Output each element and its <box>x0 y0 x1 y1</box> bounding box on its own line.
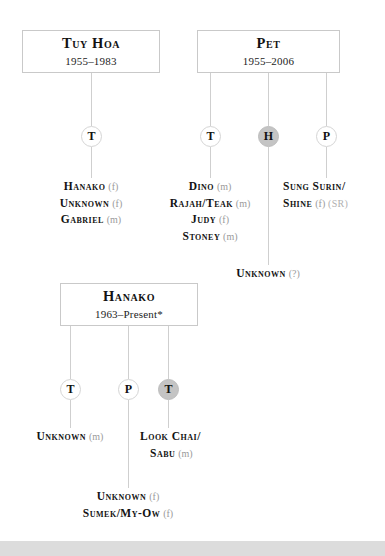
connector-line <box>128 326 129 379</box>
offspring-line: Rajah/Teak (m) <box>137 195 283 212</box>
connector-line <box>168 400 169 428</box>
offspring-name: Judy <box>191 213 216 225</box>
offspring-tag: (SR) <box>328 198 348 209</box>
offspring-group-pet-h: Unknown (?) <box>196 265 340 282</box>
offspring-gender: (m) <box>178 448 192 459</box>
offspring-gender: (m) <box>217 181 231 192</box>
connector-line <box>70 326 71 379</box>
offspring-name: Sumek/My-Ow <box>83 507 160 519</box>
offspring-gender: (m) <box>236 198 250 209</box>
connector-line <box>91 147 92 178</box>
relation-circle-hanako-t1: T <box>60 379 81 400</box>
connector-line <box>326 147 327 178</box>
offspring-line: Look Chai/ <box>140 428 250 445</box>
offspring-name: Stoney <box>182 230 220 242</box>
person-name: Tuy Hoa <box>62 36 120 51</box>
offspring-name: Unknown <box>37 430 87 442</box>
person-dates: 1963–Present* <box>95 308 163 320</box>
offspring-line: Sabu (m) <box>140 445 250 462</box>
offspring-line: Stoney (m) <box>137 228 283 245</box>
relation-circle-label: T <box>164 382 172 397</box>
offspring-gender: (f) <box>149 491 159 502</box>
offspring-line: Unknown (m) <box>0 428 140 445</box>
connector-line <box>91 73 92 126</box>
offspring-gender: (f) <box>219 214 229 225</box>
offspring-line: Shine (f) (SR) <box>283 195 385 212</box>
relation-circle-label: H <box>264 129 273 144</box>
offspring-line: Sung Surin/ <box>283 178 385 195</box>
connector-line <box>70 400 71 428</box>
offspring-group-pet-p: Sung Surin/ Shine (f) (SR) <box>283 178 385 211</box>
offspring-name: Gabriel <box>61 213 104 225</box>
person-name: Hanako <box>103 289 155 304</box>
offspring-gender: (f) <box>163 508 173 519</box>
offspring-name: Dino <box>189 180 214 192</box>
offspring-name: Sung Surin/ <box>283 180 346 192</box>
offspring-group-hanako-t1: Unknown (m) <box>0 428 140 445</box>
relation-circle-pet-h: H <box>258 126 279 147</box>
offspring-line: Sumek/My-Ow (f) <box>34 505 222 522</box>
offspring-group-hanako-p: Unknown (f) Sumek/My-Ow (f) <box>34 488 222 521</box>
offspring-gender: (?) <box>289 268 300 279</box>
offspring-line: Judy (f) <box>137 211 283 228</box>
offspring-gender: (f) <box>315 198 325 209</box>
offspring-name: Look Chai/ <box>140 430 201 442</box>
person-box-pet: Pet 1955–2006 <box>197 30 340 73</box>
connector-line <box>168 326 169 379</box>
offspring-name: Rajah/Teak <box>170 197 233 209</box>
person-box-hanako: Hanako 1963–Present* <box>60 283 198 326</box>
relation-circle-pet-p: P <box>316 126 337 147</box>
offspring-gender: (f) <box>108 181 118 192</box>
offspring-name: Hanako <box>64 180 106 192</box>
person-dates: 1955–1983 <box>65 55 116 67</box>
footer-bar <box>0 541 385 556</box>
relation-circle-hanako-p: P <box>118 379 139 400</box>
offspring-name: Unknown <box>60 197 110 209</box>
relation-circle-tuy-hoa-t: T <box>81 126 102 147</box>
offspring-name: Shine <box>283 197 312 209</box>
offspring-line: Dino (m) <box>137 178 283 195</box>
connector-line <box>326 73 327 126</box>
relation-circle-label: P <box>125 382 132 397</box>
relation-circle-hanako-t2: T <box>158 379 179 400</box>
relation-circle-pet-t: T <box>200 126 221 147</box>
offspring-gender: (m) <box>223 231 237 242</box>
family-tree-diagram: Tuy Hoa 1955–1983 T Hanako (f) Unknown (… <box>0 0 385 556</box>
offspring-name: Unknown <box>236 267 286 279</box>
connector-line <box>210 73 211 126</box>
connector-line <box>268 73 269 126</box>
person-dates: 1955–2006 <box>243 55 294 67</box>
offspring-line: Unknown (?) <box>196 265 340 282</box>
offspring-gender: (m) <box>89 431 103 442</box>
person-box-tuy-hoa: Tuy Hoa 1955–1983 <box>22 30 160 73</box>
relation-circle-label: P <box>323 129 330 144</box>
relation-circle-label: T <box>66 382 74 397</box>
offspring-gender: (m) <box>107 214 121 225</box>
offspring-name: Sabu <box>150 447 175 459</box>
person-name: Pet <box>257 36 281 51</box>
connector-line <box>210 147 211 178</box>
relation-circle-label: T <box>87 129 95 144</box>
relation-circle-label: T <box>206 129 214 144</box>
offspring-gender: (f) <box>112 198 122 209</box>
offspring-name: Unknown <box>97 490 147 502</box>
offspring-line: Unknown (f) <box>34 488 222 505</box>
offspring-group-pet-t: Dino (m) Rajah/Teak (m) Judy (f) Stoney … <box>137 178 283 245</box>
offspring-group-hanako-t2: Look Chai/ Sabu (m) <box>140 428 250 461</box>
